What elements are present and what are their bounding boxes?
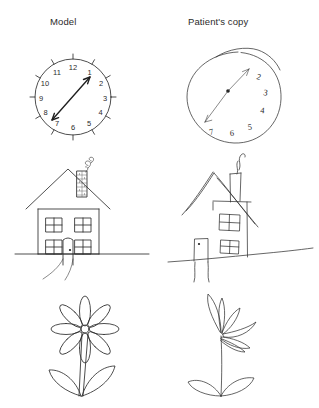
roof — [26, 169, 110, 209]
model-clock-drawing: 12 1 2 3 4 5 6 7 8 9 10 11 — [14, 50, 132, 146]
svg-text:4: 4 — [260, 105, 266, 115]
chimney — [77, 171, 87, 197]
clock-hands — [52, 77, 90, 120]
window-bottom-right — [75, 240, 91, 254]
model-house-panel — [12, 155, 152, 280]
clock-numerals: 2 3 4 5 6 7 — [208, 71, 269, 138]
svg-text:6: 6 — [71, 123, 75, 132]
window-top-right — [75, 218, 91, 232]
neglect-drawing-figure: Model Patient's copy 12 1 — [0, 0, 319, 408]
smoke-curls — [85, 157, 93, 172]
svg-text:4: 4 — [98, 108, 102, 117]
column-heading-patient: Patient's copy — [188, 16, 248, 28]
patient-house-panel — [168, 152, 314, 282]
ground-line — [168, 248, 313, 262]
patient-clock-drawing: 2 3 4 5 6 7 — [180, 44, 300, 150]
model-flower-drawing — [32, 296, 140, 400]
svg-text:11: 11 — [53, 68, 61, 77]
doorknob — [198, 243, 200, 245]
svg-text:5: 5 — [87, 119, 91, 128]
svg-text:8: 8 — [43, 108, 47, 117]
door — [194, 239, 208, 263]
flower-leaf-left — [188, 380, 221, 396]
doorknob — [69, 249, 71, 251]
flower-petals — [208, 294, 256, 352]
svg-text:5: 5 — [247, 122, 252, 132]
window-top-right — [220, 214, 241, 231]
svg-text:12: 12 — [69, 63, 77, 72]
column-heading-model: Model — [50, 16, 76, 28]
flower-stem — [221, 336, 222, 396]
svg-text:3: 3 — [103, 94, 107, 103]
model-clock-panel: 12 1 2 3 4 5 6 7 8 9 10 11 — [14, 50, 132, 146]
svg-text:3: 3 — [263, 87, 269, 98]
smoke-curls — [237, 154, 245, 174]
svg-text:10: 10 — [41, 79, 49, 88]
flower-leaf-right — [82, 366, 115, 396]
patient-flower-panel — [182, 292, 294, 404]
svg-text:1: 1 — [87, 68, 91, 77]
house-walls — [213, 201, 251, 257]
svg-text:7: 7 — [55, 119, 59, 128]
svg-text:6: 6 — [229, 128, 234, 138]
svg-text:2: 2 — [255, 71, 262, 82]
flower-petals — [51, 296, 119, 363]
clock-numerals: 12 1 2 3 4 5 6 7 8 9 10 11 — [39, 63, 107, 132]
clock-hands — [205, 69, 249, 122]
clock-face-outline — [187, 52, 281, 143]
patient-clock-panel: 2 3 4 5 6 7 — [180, 44, 300, 150]
model-flower-panel — [32, 296, 140, 400]
patient-flower-drawing — [182, 292, 294, 404]
svg-text:9: 9 — [39, 94, 43, 103]
door — [63, 238, 73, 265]
patient-house-drawing — [168, 152, 314, 282]
path — [194, 262, 209, 282]
window-bottom-left — [46, 240, 62, 254]
flower-stem — [79, 334, 88, 396]
window-top-left — [46, 218, 62, 232]
flower-leaf-right — [221, 378, 254, 396]
path — [43, 259, 73, 280]
chimney — [230, 173, 241, 202]
flower-leaf-left — [49, 370, 81, 396]
model-house-drawing — [12, 155, 152, 280]
svg-text:2: 2 — [99, 79, 103, 88]
window-bottom-right — [221, 240, 240, 254]
